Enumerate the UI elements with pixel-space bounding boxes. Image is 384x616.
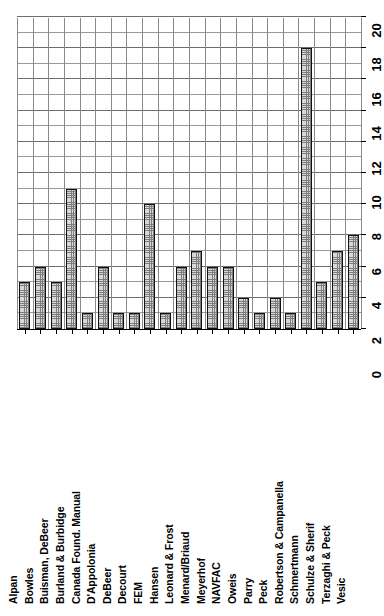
category-label: Schulze & Sherif: [305, 523, 315, 604]
category-label: Schmertmann: [289, 535, 299, 604]
category-label: Oweis: [227, 574, 237, 604]
category-label: Terzaghi & Peck: [321, 525, 331, 604]
value-axis-tick-labels: 02468101214161820: [0, 0, 378, 378]
category-label: Meyerhof: [196, 558, 206, 604]
category-label: Peck: [258, 580, 268, 604]
category-label: Robertson & Campanella: [274, 481, 284, 604]
value-axis-tick-label: 14: [370, 121, 383, 147]
category-label: D'Appolonia: [86, 544, 96, 604]
category-label: Leonard & Frost: [164, 524, 174, 604]
value-axis-tick-label: 6: [370, 258, 383, 284]
category-label: Canada Found. Manual: [71, 491, 81, 604]
category-label: Decourt: [117, 565, 127, 604]
value-axis-tick-label: 20: [370, 18, 383, 44]
value-axis-tick-label: 4: [370, 293, 383, 319]
value-axis-tick-label: 12: [370, 155, 383, 181]
category-axis-labels: AlpanBowlesBuisman, DeBeerBurland & Burb…: [0, 378, 378, 616]
category-label: Hansen: [149, 567, 159, 604]
category-label: Buisman, DeBeer: [39, 519, 49, 604]
category-label: Vesic: [336, 578, 346, 604]
value-axis-tick-label: 2: [370, 327, 383, 353]
category-label: DeBeer: [102, 568, 112, 604]
value-axis-tick-label: 16: [370, 86, 383, 112]
value-axis-tick-label: 8: [370, 224, 383, 250]
category-label: Bowles: [24, 568, 34, 604]
category-label: FEM: [133, 582, 143, 604]
category-label: Menard/Briaud: [180, 532, 190, 604]
category-label: Parry: [243, 578, 253, 604]
category-label: NAVFAC: [211, 562, 221, 604]
value-axis-tick-label: 10: [370, 190, 383, 216]
category-label: Burland & Burbidge: [55, 507, 65, 604]
value-axis-tick-label: 18: [370, 52, 383, 78]
category-label: Alpan: [8, 575, 18, 604]
